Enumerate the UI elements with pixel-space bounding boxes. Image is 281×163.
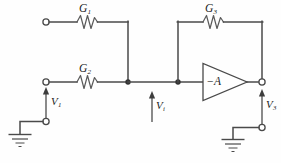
voltage-arrow-v1 — [43, 87, 49, 118]
label-voltage-v3: V3 — [266, 99, 276, 110]
wire-ground-right — [233, 128, 259, 140]
label-voltage-vi: Vi — [156, 100, 165, 111]
circuit-schematic-canvas — [0, 0, 281, 163]
ground-left — [9, 118, 50, 146]
resistor-g3-symbol — [203, 16, 224, 29]
branch-g2 — [43, 76, 128, 89]
label-resistor-g2: G2 — [79, 63, 91, 75]
ground-right — [222, 124, 266, 151]
resistor-g1-symbol — [77, 16, 98, 29]
label-amplifier-gain: −A — [207, 76, 221, 88]
v1-arrow-head — [43, 87, 49, 95]
label-voltage-v1: V1 — [51, 96, 61, 107]
voltage-arrow-vi — [149, 91, 155, 122]
ground-terminal-left[interactable] — [43, 118, 49, 124]
circuit-diagram-figure: G1 G2 G3 −A V1 Vi V3 — [0, 0, 281, 163]
voltage-arrow-v3 — [259, 89, 265, 124]
label-resistor-g1: G1 — [79, 3, 91, 15]
wire-ground-left — [20, 122, 43, 135]
v3-arrow-head — [259, 89, 265, 97]
input-terminal-top[interactable] — [43, 19, 49, 25]
ground-terminal-right[interactable] — [259, 124, 265, 130]
resistor-g2-symbol — [77, 76, 98, 89]
label-resistor-g3: G3 — [205, 3, 217, 15]
vi-arrow-head — [149, 91, 155, 99]
input-terminal-v1[interactable] — [43, 79, 49, 85]
output-terminal-v3[interactable] — [259, 79, 265, 85]
